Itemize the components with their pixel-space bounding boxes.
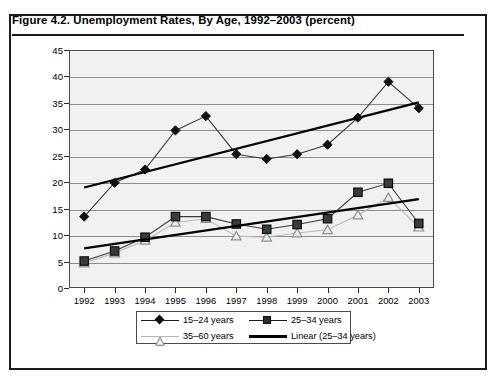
trendline-upper bbox=[84, 102, 419, 187]
legend-label-25-34: 25–34 years bbox=[287, 315, 342, 325]
y-tick-label: 45 bbox=[33, 45, 63, 56]
x-tick-mark bbox=[358, 288, 359, 293]
legend-item-linear: Linear (25–34 years) bbox=[249, 328, 376, 344]
x-tick-mark bbox=[145, 288, 146, 293]
triangle-marker-icon bbox=[323, 225, 333, 233]
legend-item-15-24: 15–24 years bbox=[141, 312, 234, 328]
x-tick-mark bbox=[236, 288, 237, 293]
series-line-diamond bbox=[84, 82, 419, 217]
x-tick-mark bbox=[115, 288, 116, 293]
square-marker-icon bbox=[171, 212, 179, 220]
legend-label-linear: Linear (25–34 years) bbox=[287, 331, 376, 341]
y-tick-label: 5 bbox=[33, 256, 63, 267]
y-tick-label: 40 bbox=[33, 71, 63, 82]
chart-plot-wrapper: 051015202530354045 199219931994199519961… bbox=[0, 0, 478, 356]
series-line-square bbox=[84, 183, 419, 261]
legend-line bbox=[249, 335, 287, 338]
legend-row-1: 15–24 years 25–34 years bbox=[137, 312, 350, 328]
x-tick-label: 2003 bbox=[399, 295, 439, 306]
triangle-marker-icon bbox=[155, 332, 165, 350]
diamond-marker-icon bbox=[171, 126, 180, 135]
trendline-lower bbox=[84, 199, 419, 248]
diamond-marker-icon bbox=[156, 316, 163, 323]
triangle-marker-icon bbox=[353, 210, 363, 218]
legend-item-35-60: 35–60 years bbox=[141, 328, 234, 344]
square-marker-icon bbox=[323, 215, 331, 223]
legend-sample-diamond bbox=[141, 313, 179, 327]
square-marker-icon bbox=[202, 212, 210, 220]
legend-item-25-34: 25–34 years bbox=[249, 312, 342, 328]
x-tick-mark bbox=[84, 288, 85, 293]
y-tick-label: 30 bbox=[33, 124, 63, 135]
square-marker-icon bbox=[354, 188, 362, 196]
y-tick-mark bbox=[64, 288, 69, 289]
legend-sample-square bbox=[249, 313, 287, 327]
legend-sample-line bbox=[249, 329, 287, 343]
legend-sample-triangle bbox=[141, 329, 179, 343]
x-tick-mark bbox=[175, 288, 176, 293]
square-marker-icon bbox=[110, 247, 118, 255]
square-marker-icon bbox=[80, 257, 88, 265]
square-marker-icon bbox=[263, 225, 271, 233]
x-tick-mark bbox=[206, 288, 207, 293]
diamond-marker-icon bbox=[293, 150, 302, 159]
legend-row-2: 35–60 years Linear (25–34 years) bbox=[137, 328, 350, 344]
y-tick-label: 0 bbox=[33, 283, 63, 294]
square-marker-icon bbox=[384, 179, 392, 187]
x-tick-mark bbox=[388, 288, 389, 293]
x-tick-mark bbox=[328, 288, 329, 293]
diamond-marker-icon bbox=[262, 154, 271, 163]
x-tick-mark bbox=[297, 288, 298, 293]
y-tick-label: 10 bbox=[33, 230, 63, 241]
chart-legend: 15–24 years 25–34 years 35–60 years Lin bbox=[136, 311, 351, 344]
y-tick-label: 15 bbox=[33, 203, 63, 214]
legend-label-15-24: 15–24 years bbox=[179, 315, 234, 325]
data-series-layer bbox=[69, 50, 434, 288]
triangle-marker-icon bbox=[384, 193, 394, 201]
square-marker-icon bbox=[293, 220, 301, 228]
x-tick-mark bbox=[267, 288, 268, 293]
square-marker-icon bbox=[415, 219, 423, 227]
x-tick-mark bbox=[419, 288, 420, 293]
y-tick-label: 35 bbox=[33, 97, 63, 108]
legend-label-35-60: 35–60 years bbox=[179, 331, 234, 341]
y-tick-label: 20 bbox=[33, 177, 63, 188]
square-marker-icon bbox=[263, 316, 271, 324]
y-tick-label: 25 bbox=[33, 150, 63, 161]
